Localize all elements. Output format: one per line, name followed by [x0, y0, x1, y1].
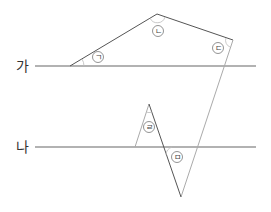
- svg-text:ㄷ: ㄷ: [215, 44, 222, 53]
- svg-text:ㅁ: ㅁ: [174, 153, 181, 162]
- angle-label-nieun: ㄴ: [153, 26, 164, 37]
- transversal-right: [181, 40, 233, 197]
- angle-label-digeut: ㄷ: [213, 43, 224, 54]
- svg-text:ㄴ: ㄴ: [155, 27, 162, 36]
- svg-text:ㄹ: ㄹ: [146, 123, 153, 132]
- angle-arc-da: [226, 38, 230, 47]
- angle-arc-ra: [146, 112, 152, 113]
- svg-text:ㄱ: ㄱ: [95, 53, 102, 62]
- angle-label-rieul: ㄹ: [144, 122, 155, 133]
- angle-arc-ga: [82, 59, 84, 66]
- angle-label-giyeok: ㄱ: [93, 52, 104, 63]
- angle-arc-na: [150, 17, 165, 23]
- angle-label-mieum: ㅁ: [172, 152, 183, 163]
- line-label-na: 나: [16, 139, 29, 155]
- zigzag-middle: [149, 104, 181, 197]
- parallel-lines-angle-diagram: 가 나 ㄱ ㄴ ㄷ ㄹ ㅁ: [0, 0, 271, 212]
- line-label-ga: 가: [16, 58, 29, 74]
- angle-arc-ma: [166, 147, 172, 155]
